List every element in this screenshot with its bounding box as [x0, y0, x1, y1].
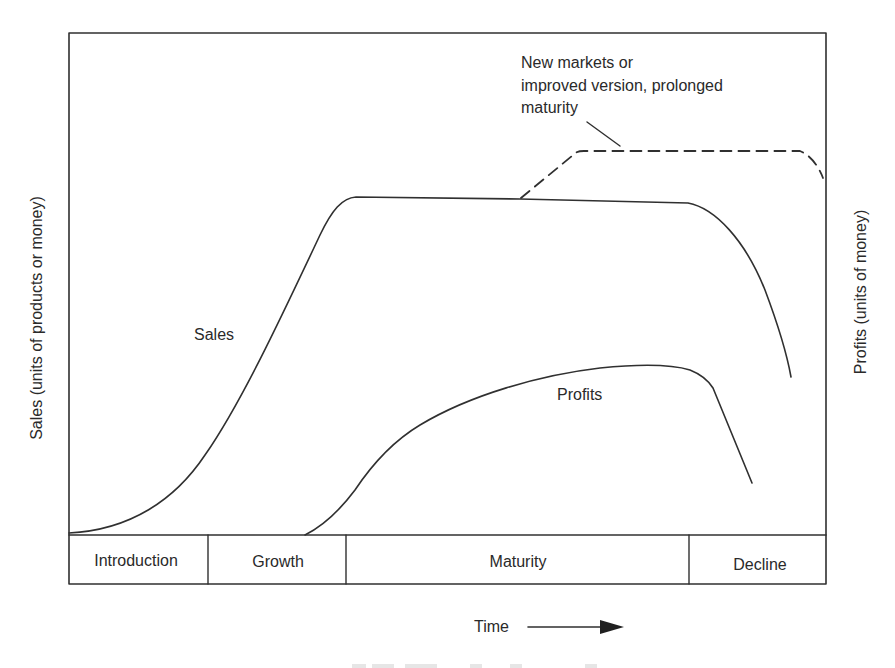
- stage-label-introduction: Introduction: [94, 552, 178, 569]
- x-axis-label: Time: [474, 618, 509, 635]
- product-life-cycle-diagram: Introduction Growth Maturity Decline Sal…: [0, 0, 895, 668]
- time-arrow-head-icon: [600, 620, 624, 634]
- cropped-caption-remnant: [352, 664, 597, 668]
- annotation-line-3: maturity: [521, 99, 578, 116]
- stage-label-growth: Growth: [252, 553, 304, 570]
- sales-curve: [69, 197, 791, 533]
- annotation-line-2: improved version, prolonged: [521, 77, 723, 94]
- prolonged-maturity-dashed-curve: [521, 151, 823, 198]
- y-axis-right-label: Profits (units of money): [852, 210, 869, 375]
- sales-curve-label: Sales: [194, 326, 234, 343]
- stage-label-maturity: Maturity: [490, 553, 547, 570]
- stage-label-decline: Decline: [733, 556, 786, 573]
- annotation-leader-line: [587, 122, 620, 146]
- y-axis-left-label: Sales (units of products or money): [28, 196, 45, 440]
- profits-curve-label: Profits: [557, 386, 602, 403]
- annotation-line-1: New markets or: [521, 54, 634, 71]
- chart-frame: [69, 33, 826, 584]
- profits-curve: [305, 365, 752, 535]
